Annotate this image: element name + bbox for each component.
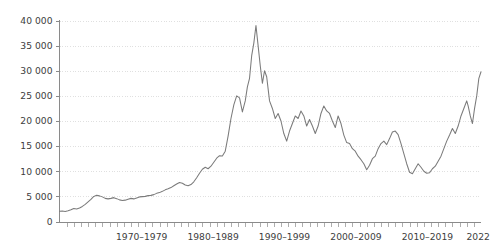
x-axis <box>60 223 482 227</box>
data-series-line <box>60 26 482 212</box>
y-axis-tick-label: 35 000 <box>20 40 52 51</box>
y-axis <box>56 20 60 223</box>
y-axis-tick-label: 25 000 <box>20 90 52 101</box>
y-axis-tick-label: 30 000 <box>20 65 52 76</box>
series-group <box>60 26 482 212</box>
x-axis-tick-label: 2000–2009 <box>330 231 382 242</box>
y-tick-labels: 05 00010 00015 00020 00025 00030 00035 0… <box>20 15 52 227</box>
y-axis-tick-label: 5 000 <box>26 191 52 202</box>
line-chart: 05 00010 00015 00020 00025 00030 00035 0… <box>0 0 494 252</box>
y-axis-tick-label: 20 000 <box>20 115 52 126</box>
x-tick-labels: 1970–19791980–19891990–19992000–20092010… <box>116 231 490 242</box>
y-axis-tick-label: 10 000 <box>20 166 52 177</box>
y-axis-tick-label: 0 <box>47 216 53 227</box>
gridlines <box>60 22 482 197</box>
x-axis-tick-label: 1990–1999 <box>259 231 311 242</box>
x-axis-tick-label: 1970–1979 <box>116 231 168 242</box>
chart-container: 05 00010 00015 00020 00025 00030 00035 0… <box>0 0 494 252</box>
x-axis-tick-label: 1980–1989 <box>187 231 239 242</box>
y-axis-tick-label: 40 000 <box>20 15 52 26</box>
x-axis-tick-label: 2022 <box>466 231 489 242</box>
y-axis-tick-label: 15 000 <box>20 140 52 151</box>
x-axis-tick-label: 2010–2019 <box>402 231 454 242</box>
